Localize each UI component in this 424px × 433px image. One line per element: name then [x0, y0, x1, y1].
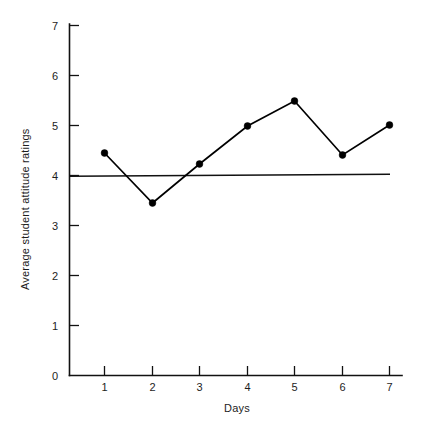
- x-tick-marks: [105, 366, 390, 376]
- y-tick-label-7: 7: [52, 20, 58, 32]
- series-line-attitude-ratings: [105, 101, 390, 203]
- data-point-day-3: [196, 161, 203, 168]
- data-point-day-6: [339, 152, 346, 159]
- x-axis-title: Days: [224, 402, 250, 414]
- y-tick-labels: 7 6 5 4 3 2 1 0: [52, 20, 58, 382]
- series-point-markers: [101, 98, 393, 207]
- x-tick-label-6: 6: [339, 381, 345, 393]
- y-tick-label-1: 1: [52, 320, 58, 332]
- data-point-day-5: [291, 98, 298, 105]
- y-tick-label-4: 4: [52, 170, 58, 182]
- y-tick-label-6: 6: [52, 70, 58, 82]
- x-tick-label-7: 7: [386, 381, 392, 393]
- data-point-day-1: [101, 150, 108, 157]
- x-tick-label-2: 2: [149, 381, 155, 393]
- x-tick-label-4: 4: [244, 381, 250, 393]
- y-tick-label-0: 0: [52, 370, 58, 382]
- reference-line-y4: [70, 174, 391, 176]
- x-tick-label-5: 5: [291, 381, 297, 393]
- y-tick-label-2: 2: [52, 270, 58, 282]
- data-point-day-7: [386, 122, 393, 129]
- y-axis-title: Average student attitude ratings: [19, 128, 31, 290]
- axes-group: [70, 24, 403, 376]
- data-point-day-2: [149, 200, 156, 207]
- x-tick-label-3: 3: [196, 381, 202, 393]
- chart-canvas: 7 6 5 4 3 2 1 0 1 2 3 4 5 6 7: [0, 0, 424, 433]
- line-chart-figure: 7 6 5 4 3 2 1 0 1 2 3 4 5 6 7: [0, 0, 424, 433]
- y-tick-label-5: 5: [52, 120, 58, 132]
- x-tick-labels: 1 2 3 4 5 6 7: [101, 381, 392, 393]
- data-point-day-4: [244, 123, 251, 130]
- x-tick-label-1: 1: [101, 381, 107, 393]
- y-tick-label-3: 3: [52, 220, 58, 232]
